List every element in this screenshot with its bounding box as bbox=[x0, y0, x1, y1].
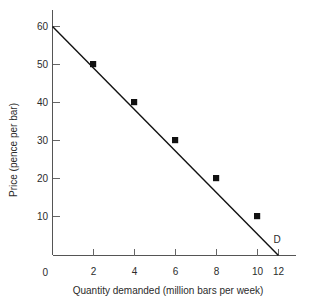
x-axis-title: Quantity demanded (million bars per week… bbox=[73, 285, 264, 296]
y-tick-label-20: 20 bbox=[37, 173, 49, 184]
x-tick-label-6: 6 bbox=[173, 266, 179, 277]
data-point-2-50 bbox=[90, 61, 96, 67]
y-tick-label-0: 0 bbox=[42, 267, 48, 278]
x-tick-label-12: 12 bbox=[273, 266, 285, 277]
y-axis-title: Price (pence per bar) bbox=[8, 103, 19, 197]
y-tick-label-30: 30 bbox=[37, 135, 49, 146]
y-tick-label-50: 50 bbox=[37, 59, 49, 70]
data-point-6-30 bbox=[172, 137, 178, 143]
x-tick-label-4: 4 bbox=[132, 266, 138, 277]
data-point-4-40 bbox=[131, 99, 137, 105]
data-point-10-10 bbox=[254, 213, 260, 219]
demand-curve-label: D bbox=[273, 234, 280, 245]
x-tick-label-10: 10 bbox=[252, 266, 264, 277]
x-tick-label-8: 8 bbox=[214, 266, 220, 277]
y-tick-label-40: 40 bbox=[37, 97, 49, 108]
y-tick-label-60: 60 bbox=[37, 21, 49, 32]
chart-background bbox=[0, 0, 311, 304]
y-tick-label-10: 10 bbox=[37, 211, 49, 222]
x-tick-label-2: 2 bbox=[91, 266, 97, 277]
demand-curve-chart: 60 50 40 30 20 10 0 2 4 6 8 10 12 D Pric… bbox=[0, 0, 311, 304]
data-point-8-20 bbox=[213, 175, 219, 181]
